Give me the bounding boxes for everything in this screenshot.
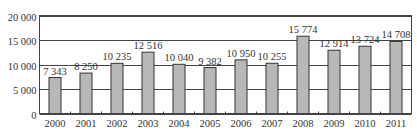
data-label: 7 343 [43, 66, 67, 77]
bar-2003 [142, 52, 154, 113]
x-tick-label: 2007 [262, 118, 283, 129]
x-tick-label: 2008 [293, 118, 314, 129]
bar-2000 [49, 78, 61, 114]
y-tick-label: 5 000 [13, 85, 37, 96]
data-label: 10 255 [258, 51, 287, 62]
x-tick-label: 2004 [169, 118, 191, 129]
bar-2005 [204, 68, 216, 114]
bar-2008 [297, 36, 309, 113]
x-tick-label: 2001 [76, 118, 97, 129]
data-label: 9 382 [198, 56, 222, 67]
bar-2010 [359, 46, 371, 113]
data-label: 14 708 [382, 29, 411, 40]
data-label: 10 235 [103, 51, 132, 62]
data-label: 13 724 [351, 34, 381, 45]
data-label: 12 516 [134, 40, 163, 51]
x-tick-label: 2010 [355, 118, 376, 129]
bar-2011 [390, 41, 402, 113]
bar-2009 [328, 50, 340, 113]
x-tick-label: 2011 [386, 118, 407, 129]
x-tick-label: 2006 [231, 118, 252, 129]
data-label: 8 250 [74, 61, 98, 72]
x-tick-label: 2005 [200, 118, 221, 129]
x-tick-label: 2003 [138, 118, 159, 129]
data-label: 15 774 [289, 24, 319, 35]
x-tick-label: 2000 [45, 118, 66, 129]
bar-2007 [266, 63, 278, 113]
y-tick-label: 20 000 [8, 12, 37, 23]
data-labels: 7 3438 25010 23512 51610 0409 38210 9501… [43, 24, 410, 76]
bars [49, 36, 402, 113]
data-label: 12 914 [320, 38, 350, 49]
bar-chart: 05 00010 00015 00020 000 7 3438 25010 23… [0, 0, 417, 136]
y-tick-label: 0 [31, 110, 36, 121]
bar-2002 [111, 63, 123, 113]
y-tick-label: 10 000 [8, 61, 37, 72]
data-label: 10 040 [165, 52, 194, 63]
y-tick-label: 15 000 [8, 36, 37, 47]
x-tick-label: 2009 [324, 118, 345, 129]
y-axis-ticks: 05 00010 00015 00020 000 [8, 12, 37, 121]
data-label: 10 950 [227, 48, 256, 59]
x-tick-label: 2002 [107, 118, 128, 129]
bar-2004 [173, 64, 185, 113]
bar-2001 [80, 73, 92, 113]
bar-2006 [235, 60, 247, 114]
